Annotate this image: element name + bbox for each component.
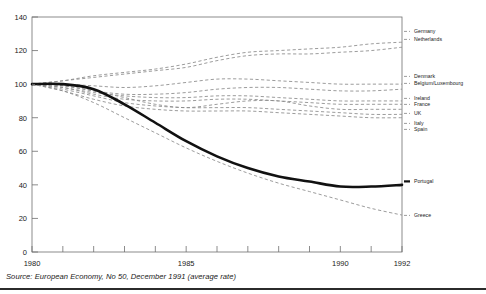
series-line-germany (32, 42, 402, 84)
series-lines (32, 42, 402, 215)
series-label-netherlands: Netherlands (414, 36, 442, 42)
x-tick-label: 1985 (178, 259, 195, 268)
line-chart: 020406080100120140 1980198519901992 Germ… (0, 0, 486, 294)
figure-container: 020406080100120140 1980198519901992 Germ… (0, 0, 486, 294)
y-tick-label: 80 (19, 114, 27, 123)
x-tick-label: 1980 (24, 259, 41, 268)
series-label-france: France (414, 101, 430, 107)
y-tick-label: 100 (14, 80, 27, 89)
series-label-uk: UK (414, 110, 422, 116)
series-label-germany: Germany (414, 28, 436, 34)
y-tick-label: 40 (19, 181, 27, 190)
series-label-denmark: Denmark (414, 73, 435, 79)
series-line-greece (32, 84, 402, 215)
x-tick-label: 1990 (332, 259, 349, 268)
y-axis: 020406080100120140 (14, 13, 38, 257)
x-axis: 1980198519901992 (24, 246, 411, 268)
series-label-spain: Spain (414, 126, 427, 132)
series-label-portugal: Portugal (414, 178, 433, 184)
y-tick-label: 120 (14, 46, 27, 55)
x-tick-label: 1992 (394, 259, 411, 268)
y-tick-label: 20 (19, 214, 27, 223)
y-tick-label: 0 (23, 248, 27, 257)
series-line-netherlands (32, 47, 402, 84)
series-label-greece: Greece (414, 212, 431, 218)
source-note: Source: European Economy, No 50, Decembe… (6, 272, 236, 281)
series-labels: GermanyNetherlandsDenmarkBelgium/Luxembo… (404, 28, 463, 218)
bottom-divider (0, 288, 486, 290)
y-tick-label: 60 (19, 147, 27, 156)
y-tick-label: 140 (14, 13, 27, 22)
series-label-belgium-luxembourg: Belgium/Luxembourg (414, 80, 463, 86)
